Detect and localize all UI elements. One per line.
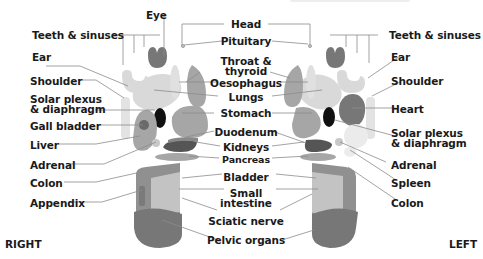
left-adrenal-zone — [335, 138, 343, 146]
left-kidneys-zone — [305, 140, 332, 153]
label-stomach: Stomach — [221, 108, 272, 118]
label-shoulder-left: Shoulder — [391, 76, 443, 86]
left-solar-plexus-zone — [323, 107, 335, 127]
label-shoulder-right: Shoulder — [30, 76, 82, 86]
label-ear-right: Ear — [32, 52, 51, 62]
label-bladder: Bladder — [223, 172, 268, 182]
right-oesophagus-zone — [170, 65, 180, 99]
label-sciatic-nerve: Sciatic nerve — [208, 216, 283, 226]
label-ear-left: Ear — [391, 52, 410, 62]
label-solar-2-right: & diaphragm — [30, 104, 106, 114]
label-throat-2: thyroid — [225, 66, 267, 76]
label-pituitary: Pituitary — [221, 36, 272, 46]
left-stomach-zone — [292, 107, 321, 138]
right-pelvic-zone — [134, 208, 182, 248]
right-throat-zone — [187, 65, 206, 107]
left-foot — [284, 47, 375, 248]
label-adrenal-left: Adrenal — [391, 160, 436, 170]
left-throat-zone — [284, 65, 303, 107]
right-shoulder-zone — [121, 97, 130, 139]
label-colon-right: Colon — [30, 178, 63, 188]
label-teeth-left: Teeth & sinuses — [389, 30, 481, 40]
label-teeth-right: Teeth & sinuses — [32, 30, 124, 40]
label-appendix: Appendix — [30, 198, 85, 208]
right-foot — [121, 47, 208, 248]
right-pancreas-zone — [155, 153, 199, 161]
label-pancreas: Pancreas — [222, 155, 270, 165]
label-eye: Eye — [146, 10, 167, 20]
label-adrenal-right: Adrenal — [30, 160, 75, 170]
label-pelvic-organs: Pelvic organs — [207, 235, 285, 245]
left-eye-zone — [326, 47, 345, 68]
right-appendix-zone — [139, 186, 145, 206]
label-colon-left: Colon — [391, 198, 424, 208]
label-heart: Heart — [391, 104, 424, 114]
left-pelvic-zone — [312, 208, 358, 248]
left-pancreas-zone — [300, 153, 336, 161]
label-lungs: Lungs — [229, 92, 264, 102]
label-spleen: Spleen — [391, 178, 431, 188]
label-duodenum: Duodenum — [214, 127, 277, 137]
label-gall-bladder: Gall bladder — [30, 121, 101, 131]
left-heart-zone — [339, 94, 365, 126]
label-right-side: RIGHT — [5, 238, 42, 250]
left-ear-zone — [337, 70, 365, 93]
right-small-intestine-zone — [151, 172, 180, 214]
label-oesophagus: Oesophagus — [210, 78, 282, 88]
label-left-side: LEFT — [449, 238, 477, 250]
label-solar-2-left: & diaphragm — [391, 138, 467, 148]
label-head: Head — [231, 19, 261, 29]
label-small-intestine-2: intestine — [220, 198, 272, 208]
left-small-intestine-zone — [312, 172, 343, 214]
label-kidneys: Kidneys — [223, 142, 269, 152]
label-liver: Liver — [30, 140, 59, 150]
